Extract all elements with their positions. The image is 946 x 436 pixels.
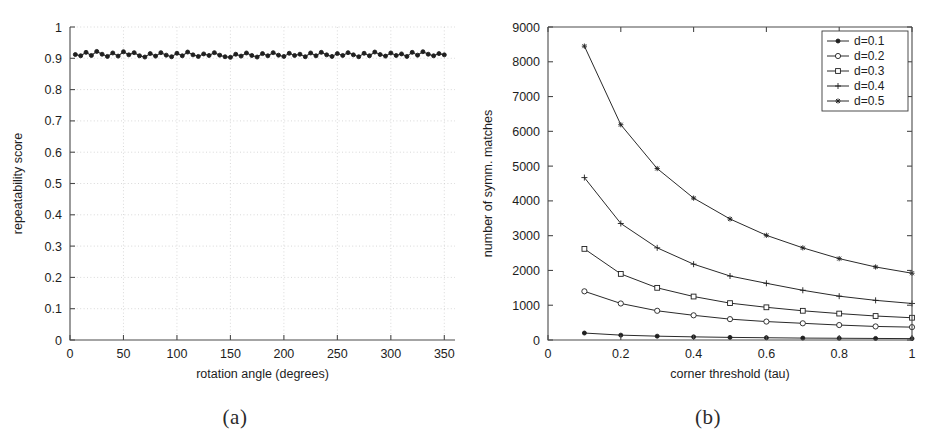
data-point-marker [121,50,125,54]
data-point-marker [837,311,842,316]
data-point-marker [691,313,696,318]
data-point-marker [618,301,623,306]
data-point-marker [84,50,88,54]
series-line [584,178,912,304]
series-line [584,333,912,339]
data-point-marker [800,287,806,293]
x-tick-label: 0.6 [758,347,775,361]
x-axis-title: corner threshold (tau) [670,367,790,381]
data-point-marker [432,54,436,58]
data-point-marker [175,51,179,55]
x-tick-label: 0 [67,347,74,361]
data-point-marker [728,301,733,306]
symm-matches-vs-threshold-chart: 010002000300040005000600070008000900000.… [470,0,946,400]
data-point-marker [138,54,142,58]
x-tick-label: 150 [220,347,241,361]
series-line [584,249,912,318]
x-tick-label: 200 [273,347,294,361]
data-point-marker [100,52,104,56]
figure-container: 00.10.20.30.40.50.60.70.80.9105010015020… [0,0,946,436]
data-point-marker [239,54,243,58]
x-tick-label: 0 [545,347,552,361]
data-point-marker [582,289,587,294]
data-point-marker [800,245,805,250]
data-point-marker [293,53,297,57]
data-point-marker [873,314,878,319]
data-point-marker [314,54,318,58]
data-point-marker [357,55,361,59]
x-axis-title: rotation angle (degrees) [196,367,329,381]
data-point-marker [335,52,339,56]
data-point-marker [764,319,769,324]
legend-marker-square [836,69,841,74]
data-point-marker [727,216,732,221]
x-tick-label: 0.2 [612,347,629,361]
data-point-marker [218,53,222,57]
data-point-marker [873,264,878,269]
data-point-marker [89,53,93,57]
y-tick-label: 0.4 [45,208,62,222]
legend[interactable]: d=0.1d=0.2d=0.3d=0.4d=0.5 [822,31,908,111]
data-point-marker [837,322,842,327]
legend-marker-star [835,98,840,103]
x-tick-label: 250 [327,347,348,361]
data-point-marker [400,52,404,56]
y-tick-label: 6000 [512,125,540,139]
y-tick-label: 0.8 [45,83,62,97]
data-point-marker [618,122,623,127]
x-tick-label: 350 [434,347,455,361]
data-point-marker [373,50,377,54]
data-point-marker [266,54,270,58]
panel-b-caption: (b) [470,405,946,430]
data-point-marker [207,53,211,57]
data-point-marker [691,294,696,299]
data-point-marker [325,53,329,57]
data-point-marker [873,324,878,329]
data-point-marker [95,49,99,53]
x-tick-label: 0.4 [685,347,702,361]
data-point-marker [691,261,697,267]
data-point-marker [394,53,398,57]
legend-marker-circle [835,53,840,58]
y-tick-label: 0 [533,334,540,348]
data-point-marker [105,54,109,58]
y-tick-label: 0.6 [45,146,62,160]
data-point-marker [378,53,382,57]
data-point-marker [255,55,259,59]
data-point-marker [410,50,414,54]
data-point-marker [437,52,441,56]
data-point-marker [442,53,446,57]
y-tick-label: 5000 [512,160,540,174]
data-point-marker [362,51,366,55]
legend-label: d=0.5 [854,94,885,108]
data-point-marker [836,293,842,299]
data-point-marker [271,51,275,55]
data-point-marker [287,51,291,55]
data-point-marker [261,52,265,56]
data-point-marker [655,308,660,313]
series-line [584,291,912,327]
y-tick-label: 0.9 [45,52,62,66]
y-tick-label: 0.1 [45,302,62,316]
data-point-marker [618,272,623,277]
series-d=0.3 [582,246,914,320]
data-point-marker [191,53,195,57]
data-point-marker [319,50,323,54]
data-point-marker [341,53,345,57]
y-tick-label: 7000 [512,90,540,104]
y-tick-label: 1 [55,21,62,35]
y-tick-label: 0 [55,334,62,348]
y-tick-label: 8000 [512,55,540,69]
data-point-marker [728,335,732,339]
data-point-marker [426,52,430,56]
data-point-marker [159,51,163,55]
y-tick-label: 0.7 [45,114,62,128]
data-point-marker [764,305,769,310]
data-point-marker [250,53,254,57]
data-point-marker [655,334,659,338]
x-tick-label: 100 [167,347,188,361]
data-point-marker [202,52,206,56]
series-group [73,49,446,59]
series-d=0.1 [582,331,914,341]
data-point-marker [351,53,355,57]
